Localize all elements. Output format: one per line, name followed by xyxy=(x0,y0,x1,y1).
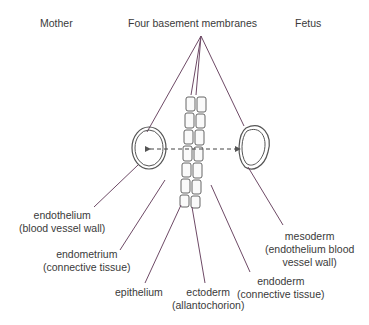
mesoderm-desc-1: (endothelium blood xyxy=(265,243,354,256)
ectoderm-desc: (allantochorion) xyxy=(172,299,244,312)
membranes-title: Four basement membranes xyxy=(128,17,257,30)
endometrium-name: endometrium xyxy=(43,248,131,261)
endometrium-desc: (connective tissue) xyxy=(43,261,131,274)
endoderm-name: endoderm xyxy=(237,275,325,288)
mesoderm-desc-2: vessel wall) xyxy=(265,256,354,269)
endoderm-label: endoderm (connective tissue) xyxy=(237,275,325,301)
endoderm-desc: (connective tissue) xyxy=(237,288,325,301)
epithelium-name: epithelium xyxy=(115,286,163,299)
fetal-blood-vessel xyxy=(239,126,269,169)
maternal-blood-vessel xyxy=(132,127,166,169)
endothelium-name: endothelium xyxy=(19,209,105,222)
ectoderm-label: ectoderm (allantochorion) xyxy=(172,286,244,312)
endometrium-label: endometrium (connective tissue) xyxy=(43,248,131,274)
basement-membrane-pointers xyxy=(147,36,244,132)
mother-label: Mother xyxy=(40,17,73,30)
endothelium-label: endothelium (blood vessel wall) xyxy=(19,209,105,235)
epithelium-cell-columns xyxy=(180,97,206,208)
mesoderm-name: mesoderm xyxy=(265,230,354,243)
epithelium-label: epithelium xyxy=(115,286,163,299)
fetus-label: Fetus xyxy=(295,17,321,30)
mesoderm-label: mesoderm (endothelium blood vessel wall) xyxy=(265,230,354,269)
ectoderm-name: ectoderm xyxy=(172,286,244,299)
endothelium-desc: (blood vessel wall) xyxy=(19,222,105,235)
